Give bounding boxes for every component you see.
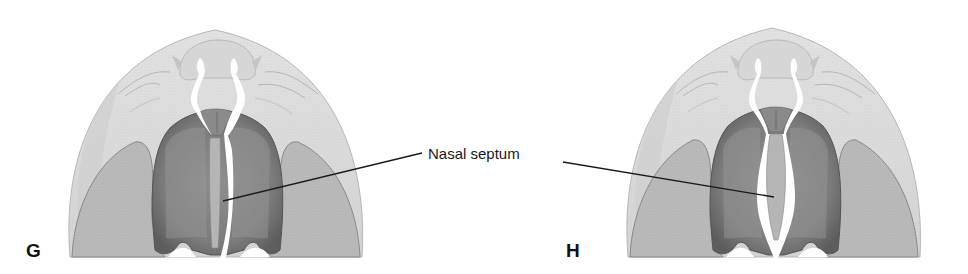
panel-label-g: G bbox=[26, 241, 41, 260]
diagram-artwork bbox=[0, 0, 968, 274]
panel-h bbox=[627, 28, 921, 258]
panel-g bbox=[69, 30, 363, 258]
panel-label-h: H bbox=[566, 241, 580, 260]
nasal-septum-label: Nasal septum bbox=[428, 146, 520, 161]
embryonic-palate-diagram: Nasal septum G H bbox=[0, 0, 968, 274]
nasal-septum bbox=[210, 138, 221, 248]
